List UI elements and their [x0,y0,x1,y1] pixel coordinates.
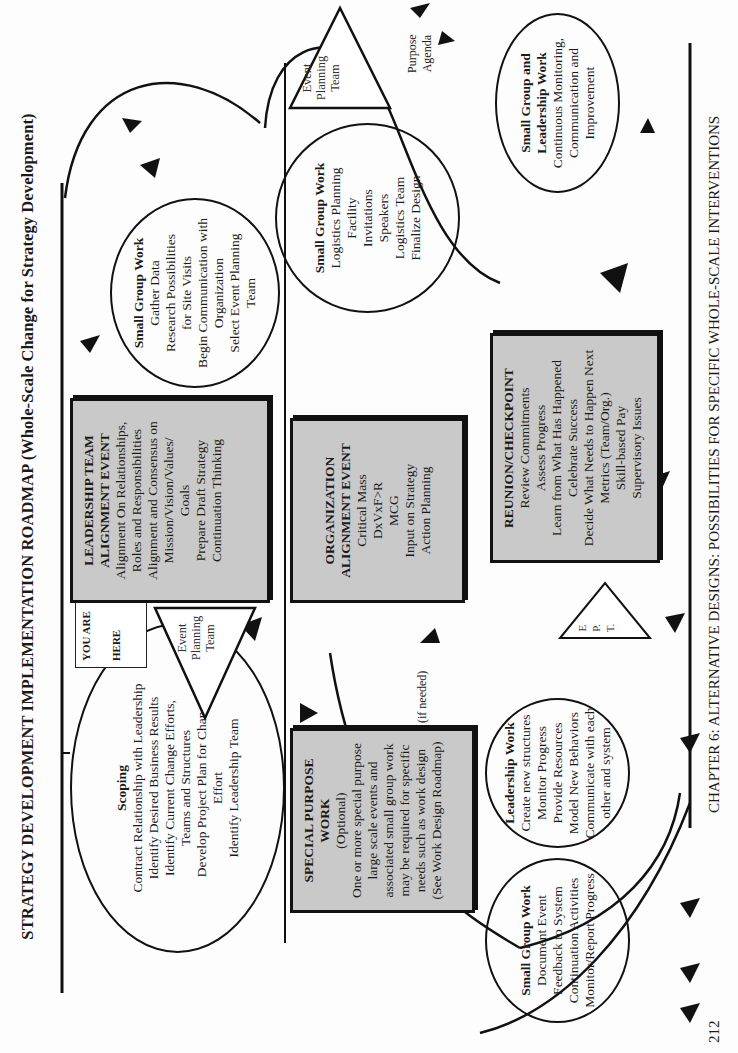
line: associated small group work [381,743,397,897]
leadership-alignment-box: LEADERSHIP TEAM ALIGNMENT EVENT Alignmen… [70,398,270,603]
scoping-line: Teams and Structures [178,730,194,846]
line: Alignment On Relationships, [113,422,129,580]
line: Improvement [582,67,598,140]
heading: SPECIAL PURPOSE [301,758,317,882]
line: Communication and [566,48,582,158]
line: other and system [598,727,614,818]
leadership-work-ellipse: Leadership Work Create new structures Mo… [485,698,630,848]
line: Speakers [376,194,392,243]
line: Assess Progress [533,405,549,492]
line: Begin Communication with [195,218,211,368]
line: Alignment and Consensus on [145,421,161,580]
line: Prepare Draft Strategy [193,440,209,561]
line: large scale events and [365,762,381,880]
label-line: T. [603,613,617,643]
line: Skill-based Pay [613,406,629,490]
line: Action Planning [418,466,434,554]
small-group-work-data-ellipse: Small Group Work Gather Data Research Po… [110,198,280,388]
line: Continuation Activities [566,878,582,1004]
heading: REUNION/CHECKPOINT [501,368,517,528]
line: for Site Visits [179,256,195,330]
line: Metrics (Team/Org.) [597,392,613,503]
line: may be required for specific [397,744,413,896]
heading: LEADERSHIP TEAM [81,435,97,566]
line: Communicate with each [582,707,598,838]
scoping-line: Contract Relationship with Leadership [130,684,146,893]
line: Decide What Needs to Happen Next [581,350,597,547]
heading: Small Group Work [312,163,328,274]
ept-label: E P. T. [575,613,617,643]
heading: Leadership Work [534,52,550,153]
line: Monitor/Report Progress [582,873,598,1008]
chapter-footer: CHAPTER 6: ALTERNATIVE DESIGNS: POSSIBIL… [706,116,723,813]
heading: ORGANIZATION [322,457,338,565]
scoping-line: Identify Current Change Efforts, [162,700,178,876]
label-line: E [575,613,589,643]
label-line: P. [589,613,603,643]
line: Research Possibilities [163,234,179,352]
page-number: 212 [706,1021,723,1044]
line: One or more special purpose [349,743,365,898]
line: Continuation Thinking [209,439,225,562]
note-line: Agenda [420,34,435,73]
line: Monitor Progress [534,726,550,820]
label-line: Event [300,48,314,108]
line: Learn from What Has Happened [549,360,565,536]
note-line: Purpose [405,34,420,73]
line: Facility [344,197,360,238]
line: DxVxF>R [370,482,386,539]
line: Invitations [360,189,376,247]
line: Continuous Monitoring, [550,38,566,169]
heading: Small Group Work [518,885,534,996]
line: Feedback to System [550,886,566,995]
line: Supervisory Issues [629,397,645,499]
line: Finalize Design [408,175,424,260]
line: MCG [386,495,402,526]
line: Select Event Planning [227,233,243,352]
purpose-agenda-note: Purpose Agenda [405,34,435,73]
event-planning-team-label: Event Planning Team [175,603,217,673]
scoping-line: Develop Project Plan for Change [194,699,210,877]
heading: Leadership Work [502,722,518,823]
line: Roles and Responsibilities [129,429,145,572]
special-purpose-work-box: SPECIAL PURPOSE WORK (Optional) One or m… [290,728,475,913]
page-title: STRATEGY DEVELOPMENT IMPLEMENTATION ROAD… [18,0,38,1053]
line: Team [243,278,259,308]
line: Model New Behaviors [566,712,582,834]
line: Goals [177,485,193,517]
rotated-landscape-page: STRATEGY DEVELOPMENT IMPLEMENTATION ROAD… [0,0,738,1053]
line: Critical Mass [354,474,370,546]
reunion-checkpoint-box: REUNION/CHECKPOINT Review Commitments As… [490,333,660,563]
line: Organization [211,258,227,328]
continuous-monitoring-ellipse: Small Group and Leadership Work Continuo… [495,13,620,193]
line: (See Work Design Roadmap) [429,742,445,900]
line: Gather Data [147,260,163,326]
line: Provide Resources [550,723,566,824]
heading: Small Group and [518,53,534,153]
line: Input on Strategy [402,464,418,558]
organization-alignment-box: ORGANIZATION ALIGNMENT EVENT Critical Ma… [290,418,465,603]
line: (Optional) [333,792,349,848]
line: Logistics Team [392,177,408,259]
line: Review Commitments [517,387,533,508]
label-line: Team [328,48,342,108]
event-planning-team-2-label: Event Planning Team [300,48,342,108]
small-group-logistics-ellipse: Small Group Work Logistics Planning Faci… [275,123,460,313]
label-line: Event [175,603,189,673]
line: Celebrate Success [565,399,581,497]
small-group-document-ellipse: Small Group Work Document Event Feedback… [485,858,630,1023]
label-line: Planning [314,48,328,108]
line: Document Event [534,895,550,986]
heading: WORK [317,798,333,842]
label-line: Team [203,603,217,673]
line: Create new structures [518,715,534,832]
line: Mission/Vision/Values/ [161,438,177,564]
scoping-line: Identify Desired Business Results [146,697,162,880]
heading: ALIGNMENT EVENT [97,433,113,567]
line: Logistics Planning [328,168,344,269]
line: needs such as work design [413,749,429,892]
scoping-heading: Scoping [114,765,130,811]
if-needed-note: (if needed) [415,671,430,723]
scoping-line: Identify Leadership Team [226,719,242,858]
label-line: Planning [189,603,203,673]
